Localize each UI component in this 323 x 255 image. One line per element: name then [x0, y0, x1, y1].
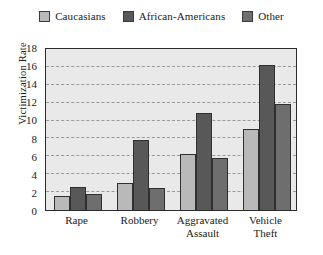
x-axis-tick-label: Robbery — [108, 214, 171, 227]
legend-swatch-icon-african-americans — [123, 11, 134, 22]
y-axis-tick-label: 8 — [32, 133, 38, 144]
bar — [70, 187, 86, 210]
bar — [133, 140, 149, 210]
y-axis-tick-labels: 024681012141618 — [0, 48, 42, 211]
victimization-rate-bar-chart: Caucasians African-Americans Other Victi… — [0, 0, 323, 255]
bar — [196, 113, 212, 210]
y-axis-tick-label: 18 — [26, 43, 37, 54]
legend-label-caucasians: Caucasians — [55, 11, 105, 22]
bar — [275, 104, 291, 210]
x-axis-tick-label-line: Vehicle — [234, 214, 297, 227]
bar-group — [172, 49, 235, 210]
bar-group — [235, 49, 297, 210]
y-axis-tick-label: 14 — [26, 79, 37, 90]
bar — [149, 188, 165, 210]
legend-item-other: Other — [242, 11, 284, 22]
x-axis-tick-labels: RapeRobberyAggravatedAssaultVehicleTheft — [45, 214, 297, 252]
y-axis-tick-label: 12 — [26, 97, 37, 108]
x-axis-tick-label: VehicleTheft — [234, 214, 297, 239]
bar — [86, 194, 102, 210]
x-axis-tick-label-line: Aggravated — [171, 214, 234, 227]
legend-swatch-icon-other — [242, 11, 253, 22]
bar-group — [109, 49, 172, 210]
y-axis-tick-label: 6 — [32, 151, 38, 162]
bar-group — [46, 49, 109, 210]
bar — [180, 154, 196, 210]
y-axis-tick-label: 16 — [26, 61, 37, 72]
y-axis-tick-label: 4 — [32, 169, 38, 180]
bar — [54, 196, 70, 210]
x-axis-tick-label-line: Assault — [171, 227, 234, 240]
x-axis-tick-label-line: Robbery — [108, 214, 171, 227]
bar — [212, 158, 228, 210]
legend-label-other: Other — [258, 11, 284, 22]
legend-item-caucasians: Caucasians — [39, 11, 105, 22]
bars-layer — [46, 49, 296, 210]
x-axis-tick-label: AggravatedAssault — [171, 214, 234, 239]
x-axis-tick-label-line: Rape — [45, 214, 108, 227]
x-axis-tick-label-line: Theft — [234, 227, 297, 240]
x-axis-tick-label: Rape — [45, 214, 108, 227]
chart-legend: Caucasians African-Americans Other — [0, 11, 323, 22]
bar — [243, 129, 259, 210]
legend-label-african-americans: African-Americans — [139, 11, 226, 22]
y-axis-tick-label: 10 — [26, 115, 37, 126]
plot-area — [45, 48, 297, 211]
bar — [259, 65, 275, 210]
bar — [117, 183, 133, 210]
y-axis-tick-label: 0 — [32, 206, 38, 217]
legend-item-african-americans: African-Americans — [123, 11, 226, 22]
y-axis-tick-label: 2 — [32, 187, 38, 198]
legend-swatch-icon-caucasians — [39, 11, 50, 22]
